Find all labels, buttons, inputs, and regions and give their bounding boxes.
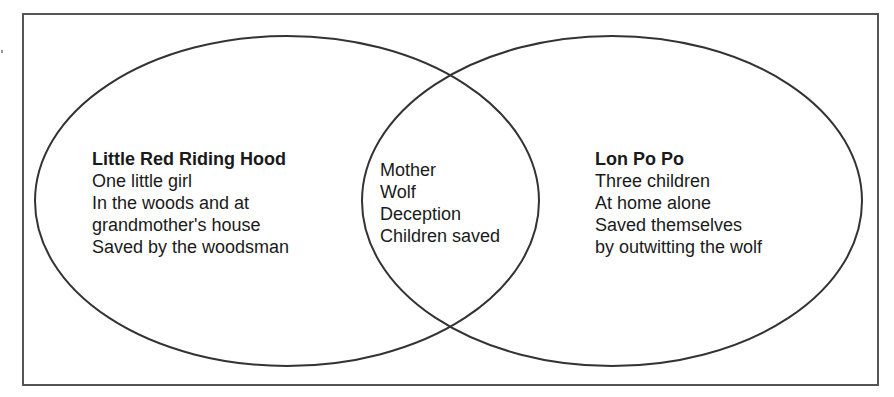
intersection-text: Mother Wolf Deception Children saved bbox=[380, 159, 500, 247]
right-set-item: Three children bbox=[595, 170, 762, 192]
left-set-item: Saved by the woodsman bbox=[92, 236, 289, 258]
right-set-text: Lon Po Po Three children At home alone S… bbox=[595, 148, 762, 258]
left-set-text: Little Red Riding Hood One little girl I… bbox=[92, 148, 289, 258]
intersection-item: Wolf bbox=[380, 181, 500, 203]
left-set-item: One little girl bbox=[92, 170, 289, 192]
intersection-item: Children saved bbox=[380, 225, 500, 247]
right-set-item: At home alone bbox=[595, 192, 762, 214]
right-set-title: Lon Po Po bbox=[595, 148, 762, 170]
right-set-item: by outwitting the wolf bbox=[595, 236, 762, 258]
intersection-item: Mother bbox=[380, 159, 500, 181]
left-set-item: In the woods and at bbox=[92, 192, 289, 214]
intersection-item: Deception bbox=[380, 203, 500, 225]
right-set-item: Saved themselves bbox=[595, 214, 762, 236]
left-set-item: grandmother's house bbox=[92, 214, 289, 236]
left-set-title: Little Red Riding Hood bbox=[92, 148, 289, 170]
